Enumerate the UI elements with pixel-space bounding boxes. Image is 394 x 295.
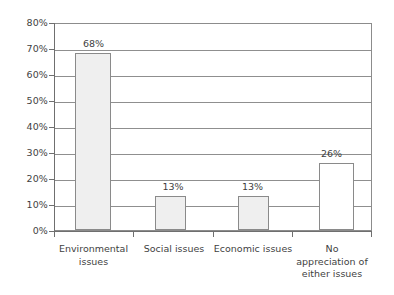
value-label-social-issues: 13% <box>133 181 213 192</box>
value-label-no-appreciation: 26% <box>292 148 371 159</box>
y-axis-label-10: 10% <box>4 200 48 210</box>
x-axis-label-line: Economic issues <box>210 243 296 256</box>
bar-economic-issues <box>238 196 269 230</box>
y-axis-label-80: 80% <box>4 18 48 28</box>
x-axis-label-economic-issues: Economic issues <box>210 243 296 256</box>
y-axis-label-20: 20% <box>4 174 48 184</box>
x-tick-2 <box>213 231 214 237</box>
x-tick-3 <box>292 231 293 237</box>
y-tick-50 <box>49 101 54 102</box>
y-axis-label-40: 40% <box>4 122 48 132</box>
plot-area <box>54 23 372 231</box>
x-axis-label-social-issues: Social issues <box>135 243 213 256</box>
bar-chart: 80% 70% 60% 50% 40% 30% 20% 10% 0% 68% 1… <box>0 0 394 295</box>
y-tick-30 <box>49 153 54 154</box>
x-axis-label-line: Environmental <box>46 243 141 256</box>
x-tick-4 <box>371 231 372 237</box>
value-label-economic-issues: 13% <box>213 181 292 192</box>
value-label-environmental-issues: 68% <box>54 38 133 49</box>
y-tick-70 <box>49 49 54 50</box>
x-axis-label-environmental-issues: Environmental issues <box>46 243 141 268</box>
x-axis-label-line: issues <box>46 256 141 269</box>
y-axis-label-50: 50% <box>4 96 48 106</box>
gridline-70 <box>55 50 371 51</box>
x-axis-label-no-appreciation: No appreciation of either issues <box>288 243 376 281</box>
y-axis-line <box>54 23 55 231</box>
x-axis-label-line: No <box>288 243 376 256</box>
x-axis-label-line: either issues <box>288 268 376 281</box>
x-axis-label-line: Social issues <box>135 243 213 256</box>
y-axis-label-70: 70% <box>4 44 48 54</box>
y-tick-60 <box>49 75 54 76</box>
bar-environmental-issues <box>75 53 111 230</box>
x-axis-label-line: appreciation of <box>288 256 376 269</box>
x-tick-0 <box>54 231 55 237</box>
y-axis-label-0: 0% <box>4 226 48 236</box>
bar-no-appreciation <box>319 163 354 230</box>
y-tick-40 <box>49 127 54 128</box>
y-axis-label-60: 60% <box>4 70 48 80</box>
y-tick-20 <box>49 179 54 180</box>
bar-social-issues <box>155 196 186 230</box>
x-tick-1 <box>133 231 134 237</box>
y-axis-label-30: 30% <box>4 148 48 158</box>
y-tick-80 <box>49 23 54 24</box>
y-tick-10 <box>49 205 54 206</box>
